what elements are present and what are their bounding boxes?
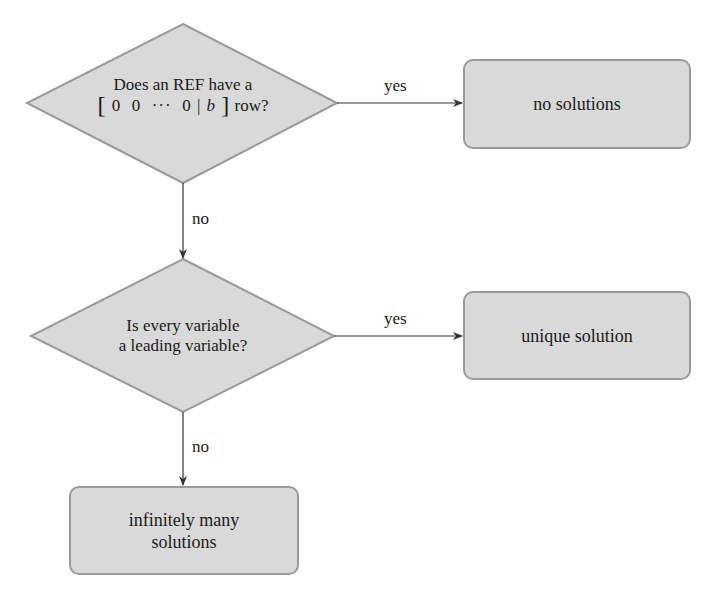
decision-1-line2: [ 0 0 ··· 0 | b ] row?: [83, 95, 283, 116]
edge-label-no-1: no: [192, 209, 209, 229]
outcome-no-solutions-label: no solutions: [533, 93, 621, 115]
decision-2-label: Is every variable a leading variable?: [83, 316, 283, 356]
decision-2-line1: Is every variable: [83, 316, 283, 336]
outcome-unique-solution: unique solution: [463, 291, 691, 380]
edge-label-yes-1: yes: [384, 76, 407, 96]
edge-label-yes-2: yes: [384, 309, 407, 329]
outcome-unique-solution-label: unique solution: [521, 325, 633, 347]
outcome-infinitely-many-line2: solutions: [151, 531, 216, 553]
zero-row-math: [ 0 0 ··· 0 | b ]: [97, 96, 230, 115]
outcome-no-solutions: no solutions: [463, 59, 691, 149]
decision-2-line2: a leading variable?: [83, 336, 283, 356]
decision-1-label: Does an REF have a [ 0 0 ··· 0 | b ] row…: [83, 75, 283, 116]
outcome-infinitely-many: infinitely many solutions: [69, 486, 299, 575]
edge-label-no-2: no: [192, 437, 209, 457]
outcome-infinitely-many-line1: infinitely many: [129, 509, 239, 531]
decision-1-line1: Does an REF have a: [83, 75, 283, 95]
